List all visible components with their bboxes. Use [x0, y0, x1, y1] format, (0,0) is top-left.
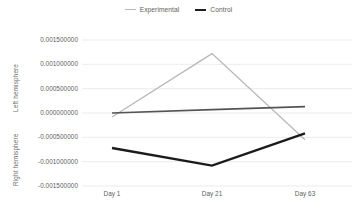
line-chart: Experimental Control Left hemisphere Rig… [0, 0, 357, 215]
series-lines [112, 54, 305, 166]
series-line-control-right [112, 133, 305, 165]
series-line-experimental-left [112, 54, 305, 140]
series-line-control-left [112, 107, 305, 113]
plot-area [0, 0, 357, 215]
